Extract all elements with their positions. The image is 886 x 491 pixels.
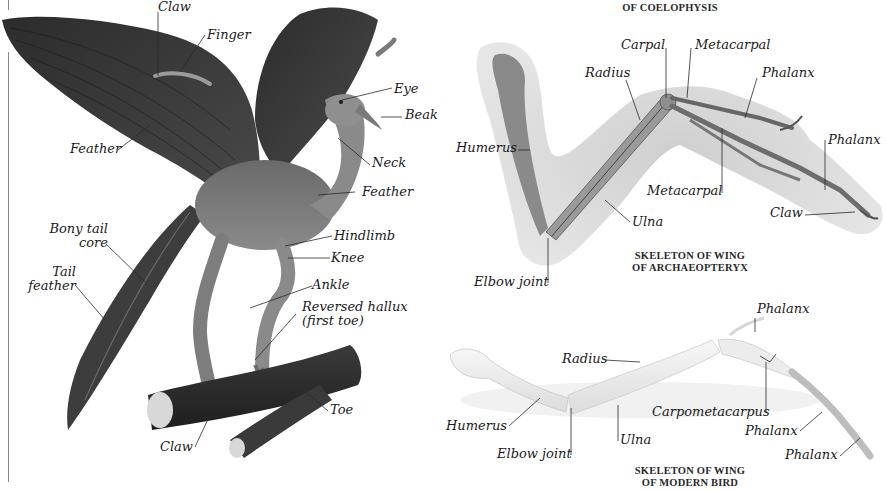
branch-cut-end	[147, 392, 173, 428]
label-reversed-hallux: Reversed hallux (first toe)	[302, 300, 408, 328]
branch	[148, 345, 361, 430]
label-ulna: Ulna	[632, 215, 663, 229]
label-tail-feather-line2: feather	[26, 279, 76, 293]
label-radius-modern: Radius	[562, 352, 607, 366]
label-feather-body: Feather	[362, 185, 413, 199]
modern-phalanx-top	[730, 318, 764, 335]
label-carpometacarpus: Carpometacarpus	[652, 405, 770, 419]
right-leg	[262, 245, 288, 370]
label-phalanx-mid: Phalanx	[745, 424, 797, 438]
label-eye: Eye	[394, 82, 419, 96]
caption-coelophysis-fragment: OF COELOPHYSIS	[600, 2, 740, 14]
label-carpal: Carpal	[621, 38, 665, 52]
label-phalanx-top: Phalanx	[757, 302, 809, 316]
modern-carpometacarpus	[718, 339, 800, 380]
label-bony-tail-core-line1: Bony tail	[46, 222, 108, 236]
bird-eye	[339, 100, 343, 104]
label-tail-feather: Tail feather	[26, 265, 76, 293]
right-wing-claw	[378, 40, 394, 54]
label-beak: Beak	[405, 108, 438, 122]
label-phalanx-2: Phalanx	[828, 133, 880, 147]
label-toe: Toe	[330, 403, 353, 417]
label-phalanx-1: Phalanx	[762, 66, 814, 80]
caption-modern-bird-line2: OF MODERN BIRD	[620, 477, 760, 489]
label-hindlimb: Hindlimb	[334, 229, 395, 243]
label-bony-tail-core: Bony tail core	[46, 222, 108, 250]
label-knee: Knee	[331, 251, 364, 265]
caption-archaeopteryx-line1: SKELETON OF WING	[620, 250, 760, 262]
caption-archaeopteryx: SKELETON OF WING OF ARCHAEOPTERYX	[620, 250, 760, 274]
modern-bird-wing-skeleton	[450, 318, 870, 456]
label-ulna-modern: Ulna	[620, 433, 651, 447]
label-claw-foot: Claw	[160, 440, 193, 454]
fossil-halo	[477, 42, 883, 265]
label-radius: Radius	[585, 66, 630, 80]
label-metacarpal-upper: Metacarpal	[695, 38, 770, 52]
label-phalanx-bottom: Phalanx	[785, 448, 837, 462]
evolution-of-wing-diagram: Claw Finger Feather Eye Beak Neck Feathe…	[0, 0, 886, 491]
caption-archaeopteryx-line2: OF ARCHAEOPTERYX	[620, 262, 760, 274]
label-claw-archaeopteryx: Claw	[770, 206, 803, 220]
caption-modern-bird-line1: SKELETON OF WING	[620, 465, 760, 477]
label-reversed-hallux-line2: (first toe)	[302, 314, 408, 328]
label-ankle: Ankle	[312, 278, 350, 292]
modern-phalanges	[792, 372, 870, 456]
label-elbow-joint-modern: Elbow joint	[497, 447, 572, 461]
archaeopteryx-wing-fossil	[477, 42, 883, 265]
label-metacarpal-lower: Metacarpal	[647, 184, 722, 198]
label-elbow-joint-archaeopteryx: Elbow joint	[474, 275, 549, 289]
label-claw-wing: Claw	[158, 0, 191, 14]
label-feather-wing: Feather	[70, 142, 121, 156]
label-finger: Finger	[207, 28, 251, 42]
label-humerus: Humerus	[456, 141, 517, 155]
label-reversed-hallux-line1: Reversed hallux	[302, 300, 408, 314]
label-tail-feather-line1: Tail	[26, 265, 76, 279]
label-humerus-modern: Humerus	[446, 419, 507, 433]
left-leg	[200, 240, 222, 390]
caption-modern-bird: SKELETON OF WING OF MODERN BIRD	[620, 465, 760, 489]
label-neck: Neck	[372, 156, 406, 170]
label-bony-tail-core-line2: core	[46, 236, 108, 250]
